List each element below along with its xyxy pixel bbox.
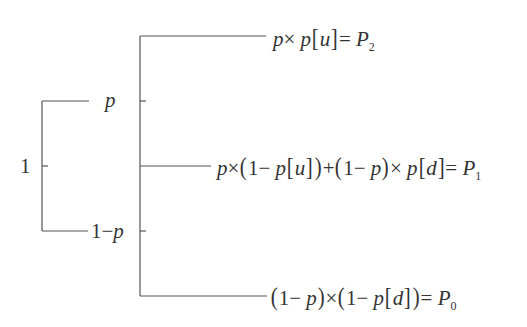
- root-label: 1: [20, 156, 31, 177]
- minus-symbol: −: [356, 286, 368, 310]
- P-symbol: P: [438, 286, 451, 310]
- branch-p-label: p: [105, 90, 116, 111]
- times-symbol: ×: [228, 156, 240, 180]
- outcome-p0-expression: (1− p)×(1− p[d])= P0: [270, 284, 456, 312]
- p-symbol: p: [276, 156, 287, 180]
- one-symbol: 1: [248, 156, 259, 180]
- u-symbol: u: [295, 156, 306, 180]
- left-paren: (: [338, 284, 345, 310]
- left-paren: (: [240, 154, 247, 180]
- right-paren: ): [315, 154, 322, 180]
- right-bracket: ]: [404, 284, 411, 310]
- left-bracket: [: [312, 25, 319, 51]
- minus-symbol: −: [259, 156, 271, 180]
- p-symbol: p: [105, 88, 116, 112]
- minus-symbol: −: [354, 156, 366, 180]
- outcome-p2-expression: p× p[u]= P2: [273, 25, 375, 53]
- p-symbol: p: [407, 156, 418, 180]
- right-bracket: ]: [331, 25, 338, 51]
- p-symbol: p: [113, 219, 124, 243]
- one-symbol: 1: [91, 219, 102, 243]
- outcome-p1-expression: p×(1− p[u])+(1− p)× p[d]= P1: [217, 154, 481, 182]
- P-symbol: P: [356, 27, 369, 51]
- equals-symbol: =: [339, 27, 351, 51]
- left-paren: (: [335, 154, 342, 180]
- times-symbol: ×: [325, 286, 337, 310]
- p-symbol: p: [306, 286, 317, 310]
- subscript-1: 1: [475, 169, 481, 183]
- right-paren: ): [382, 154, 389, 180]
- p-symbol: p: [273, 27, 284, 51]
- p-symbol: p: [301, 27, 312, 51]
- p-symbol: p: [371, 156, 382, 180]
- equals-symbol: =: [445, 156, 457, 180]
- left-bracket: [: [418, 154, 425, 180]
- right-paren: ): [413, 284, 420, 310]
- left-bracket: [: [287, 154, 294, 180]
- d-symbol: d: [426, 156, 437, 180]
- right-bracket: ]: [306, 154, 313, 180]
- plus-symbol: +: [323, 156, 335, 180]
- left-bracket: [: [385, 284, 392, 310]
- subscript-2: 2: [369, 40, 375, 54]
- right-paren: ): [318, 284, 325, 310]
- one-symbol: 1: [343, 156, 354, 180]
- equals-symbol: =: [421, 286, 433, 310]
- branch-1-minus-p-label: 1−p: [91, 221, 124, 242]
- P-symbol: P: [462, 156, 475, 180]
- one-symbol: 1: [279, 286, 290, 310]
- u-symbol: u: [320, 27, 331, 51]
- left-paren: (: [271, 284, 278, 310]
- d-symbol: d: [393, 286, 404, 310]
- subscript-0: 0: [450, 299, 456, 313]
- right-bracket: ]: [438, 154, 445, 180]
- p-symbol: p: [374, 286, 385, 310]
- times-symbol: ×: [284, 27, 296, 51]
- one-symbol: 1: [346, 286, 357, 310]
- root-value: 1: [20, 154, 31, 178]
- minus-symbol: −: [102, 219, 114, 243]
- times-symbol: ×: [390, 156, 402, 180]
- minus-symbol: −: [289, 286, 301, 310]
- p-symbol: p: [217, 156, 228, 180]
